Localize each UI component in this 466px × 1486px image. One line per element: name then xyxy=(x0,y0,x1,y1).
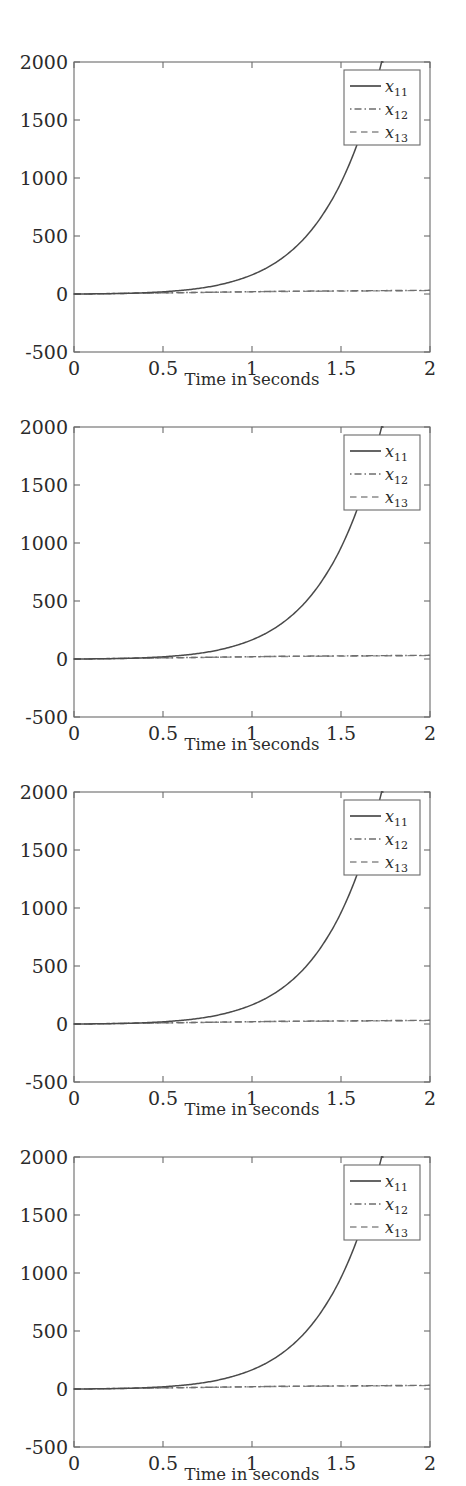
chart-svg: -5000500100015002000 00.511.52 x11x12x13… xyxy=(0,1113,466,1485)
x-tick-label: 0.5 xyxy=(148,1452,178,1474)
y-tick-labels: -5000500100015002000 xyxy=(20,51,68,363)
series-x11 xyxy=(74,427,383,659)
chart-svg: -5000500100015002000 00.511.52 x11x12x13… xyxy=(0,18,466,390)
legend: x11x12x13 xyxy=(344,435,420,510)
y-tick-label: 0 xyxy=(56,283,68,305)
chart-svg: -5000500100015002000 00.511.52 x11x12x13… xyxy=(0,748,466,1120)
chart-panel-3: -5000500100015002000 00.511.52 x11x12x13… xyxy=(0,748,466,1120)
y-tick-label: 500 xyxy=(32,955,68,977)
y-tick-labels: -5000500100015002000 xyxy=(20,1146,68,1458)
x-tick-label: 2 xyxy=(424,1087,436,1109)
y-tick-label: 0 xyxy=(56,1378,68,1400)
x-tick-label: 2 xyxy=(424,722,436,744)
y-tick-labels: -5000500100015002000 xyxy=(20,781,68,1093)
y-tick-label: 1500 xyxy=(20,1204,68,1226)
legend-box xyxy=(344,435,420,510)
y-tick-label: 0 xyxy=(56,648,68,670)
chart-panel-2: -5000500100015002000 00.511.52 x11x12x13… xyxy=(0,383,466,755)
x-tick-label: 1.5 xyxy=(326,722,356,744)
series-x11 xyxy=(74,792,383,1024)
y-tick-label: 500 xyxy=(32,225,68,247)
y-tick-label: 500 xyxy=(32,590,68,612)
y-tick-label: 500 xyxy=(32,1320,68,1342)
x-tick-label: 0 xyxy=(68,722,80,744)
legend: x11x12x13 xyxy=(344,70,420,145)
series-x11 xyxy=(74,62,383,294)
y-tick-label: 0 xyxy=(56,1013,68,1035)
legend: x11x12x13 xyxy=(344,1165,420,1240)
x-tick-label: 0.5 xyxy=(148,357,178,379)
x-tick-label: 2 xyxy=(424,1452,436,1474)
x-tick-label: 0.5 xyxy=(148,722,178,744)
y-tick-label: -500 xyxy=(25,706,68,728)
x-tick-label: 0 xyxy=(68,357,80,379)
chart-svg: -5000500100015002000 00.511.52 x11x12x13… xyxy=(0,383,466,755)
chart-panel-4: -5000500100015002000 00.511.52 x11x12x13… xyxy=(0,1113,466,1485)
y-tick-label: 1500 xyxy=(20,109,68,131)
y-tick-label: 2000 xyxy=(20,781,68,803)
x-tick-label: 2 xyxy=(424,357,436,379)
x-tick-label: 1.5 xyxy=(326,1452,356,1474)
y-tick-label: 2000 xyxy=(20,1146,68,1168)
x-tick-label: 0.5 xyxy=(148,1087,178,1109)
y-tick-label: 1000 xyxy=(20,167,68,189)
y-tick-label: 2000 xyxy=(20,51,68,73)
chart-panel-1: -5000500100015002000 00.511.52 x11x12x13… xyxy=(0,18,466,390)
legend-box xyxy=(344,1165,420,1240)
y-tick-label: 1000 xyxy=(20,532,68,554)
y-tick-label: 1500 xyxy=(20,474,68,496)
x-tick-label: 0 xyxy=(68,1087,80,1109)
figure-container: -5000500100015002000 00.511.52 x11x12x13… xyxy=(0,0,466,1486)
y-tick-label: 1000 xyxy=(20,1262,68,1284)
x-tick-label: 1.5 xyxy=(326,1087,356,1109)
x-axis-title: Time in seconds xyxy=(184,1465,319,1484)
y-tick-labels: -5000500100015002000 xyxy=(20,416,68,728)
x-tick-label: 1.5 xyxy=(326,357,356,379)
legend: x11x12x13 xyxy=(344,800,420,875)
y-tick-label: 1000 xyxy=(20,897,68,919)
x-tick-label: 0 xyxy=(68,1452,80,1474)
y-tick-label: 2000 xyxy=(20,416,68,438)
series-x11 xyxy=(74,1157,383,1389)
legend-box xyxy=(344,70,420,145)
legend-box xyxy=(344,800,420,875)
y-tick-label: -500 xyxy=(25,341,68,363)
y-tick-label: -500 xyxy=(25,1071,68,1093)
y-tick-label: 1500 xyxy=(20,839,68,861)
y-tick-label: -500 xyxy=(25,1436,68,1458)
